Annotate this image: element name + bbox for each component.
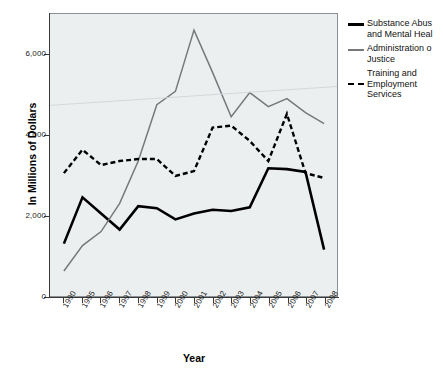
y-axis-line bbox=[49, 13, 50, 297]
legend-item[interactable]: Substance Abusand Mental Heal bbox=[348, 18, 443, 39]
solid-thick-line-icon bbox=[348, 18, 364, 30]
solid-thin-line-icon bbox=[348, 43, 364, 55]
legend-item-label: Substance Abusand Mental Heal bbox=[367, 18, 433, 39]
y-tick-label: 0 bbox=[41, 292, 46, 301]
legend-item-label: Training andEmploymentServices bbox=[367, 68, 417, 100]
legend-item[interactable]: Administration oJustice bbox=[348, 43, 443, 64]
y-tick-label: 6,000 bbox=[25, 49, 46, 58]
dashed-line-icon bbox=[348, 78, 364, 90]
chart-canvas: 6,0004,0002,0000 In Millions of Dollars … bbox=[0, 0, 443, 375]
series-line-2 bbox=[64, 30, 324, 271]
y-axis-title: In Millions of Dollars bbox=[26, 74, 38, 234]
chart-legend: Substance Abusand Mental HealAdministrat… bbox=[348, 18, 443, 104]
series-line-1 bbox=[64, 168, 324, 249]
x-axis-title: Year bbox=[49, 352, 339, 364]
legend-item[interactable]: Training andEmploymentServices bbox=[348, 68, 443, 100]
plot-area bbox=[49, 13, 338, 297]
series-lines bbox=[50, 14, 337, 296]
legend-item-label: Administration oJustice bbox=[367, 43, 432, 64]
